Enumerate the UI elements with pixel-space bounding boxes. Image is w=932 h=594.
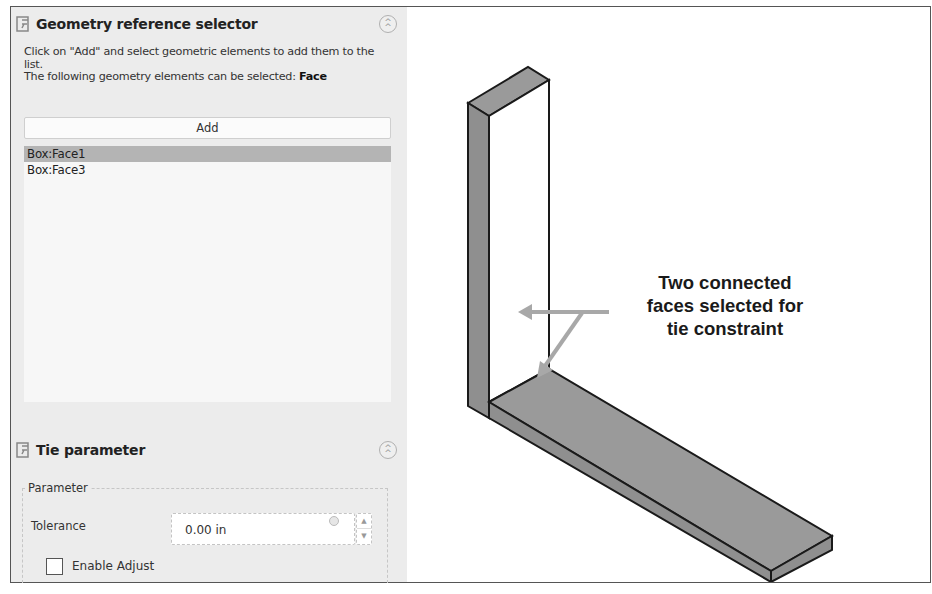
reference-list[interactable]: Box:Face1 Box:Face3 bbox=[24, 146, 391, 402]
instruction-prefix: The following geometry elements can be s… bbox=[24, 70, 299, 83]
base-top-face bbox=[489, 369, 832, 571]
tolerance-input[interactable]: 0.00 in bbox=[171, 513, 355, 545]
reference-item-face3[interactable]: Box:Face3 bbox=[24, 162, 391, 178]
reference-item-face1[interactable]: Box:Face1 bbox=[24, 146, 391, 162]
task-panel-icon bbox=[15, 15, 31, 33]
geometry-selector-title: Geometry reference selector bbox=[36, 16, 258, 32]
task-panel-icon bbox=[15, 441, 31, 459]
tolerance-spinner[interactable]: ▲ ▼ bbox=[356, 513, 372, 545]
annotation-line-2: faces selected for bbox=[610, 294, 840, 317]
instruction-line-1: Click on "Add" and select geometric elem… bbox=[24, 46, 396, 71]
geometry-selector-header[interactable]: Geometry reference selector ^^ bbox=[11, 7, 407, 41]
add-button[interactable]: Add bbox=[24, 117, 391, 139]
collapse-chevron-icon[interactable]: ^^ bbox=[379, 441, 397, 459]
wall-front-face bbox=[468, 103, 489, 418]
wall-inner-face bbox=[489, 80, 549, 402]
selector-instructions: Click on "Add" and select geometric elem… bbox=[24, 46, 396, 84]
annotation-line-3: tie constraint bbox=[610, 317, 840, 340]
enable-adjust-checkbox[interactable] bbox=[46, 558, 63, 575]
spin-up-icon[interactable]: ▲ bbox=[357, 514, 371, 529]
parameter-group-label: Parameter bbox=[25, 481, 91, 495]
allowed-geometry-type: Face bbox=[299, 70, 327, 83]
annotation-line-1: Two connected bbox=[610, 271, 840, 294]
tie-parameter-title: Tie parameter bbox=[36, 442, 145, 458]
tolerance-label: Tolerance bbox=[31, 519, 86, 533]
instruction-line-2: The following geometry elements can be s… bbox=[24, 71, 396, 84]
annotation-text: Two connected faces selected for tie con… bbox=[610, 271, 840, 340]
spin-down-icon[interactable]: ▼ bbox=[357, 529, 371, 544]
3d-viewport[interactable]: Two connected faces selected for tie con… bbox=[407, 7, 930, 582]
tie-parameter-header[interactable]: Tie parameter ^^ bbox=[11, 433, 407, 467]
collapse-chevron-icon[interactable]: ^^ bbox=[379, 15, 397, 33]
enable-adjust-label: Enable Adjust bbox=[72, 559, 154, 573]
expression-icon[interactable] bbox=[329, 516, 339, 526]
